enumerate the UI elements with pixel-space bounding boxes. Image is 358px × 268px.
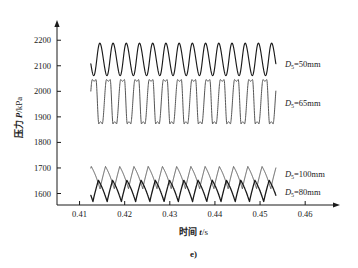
series-label-d5-100mm: D5=100mm [284,169,325,180]
series-annotations: D5=50mmD5=65mmD5=100mmD5=80mm [284,59,325,198]
curve-d5-80mm [91,180,276,201]
x-axis-arrow [333,202,340,207]
y-axis-title: 压力 P/kPa [13,97,24,139]
x-tick-label: 0.42 [117,209,132,219]
series-label-d5-50mm: D5=50mm [284,59,321,70]
svg-text:D5=50mm: D5=50mm [284,59,321,70]
pressure-oscillation-chart: 16001700180019002000210022000.410.420.43… [0,0,358,268]
series-label-d5-80mm: D5=80mm [284,187,321,198]
curve-d5-65mm [91,80,276,124]
x-tick-label: 0.44 [207,209,223,219]
series-label-d5-65mm: D5=65mm [284,98,321,109]
y-axis-arrow [54,20,59,27]
curve-d5-100mm [91,166,276,188]
svg-text:D5=80mm: D5=80mm [284,187,321,198]
x-tick-label: 0.41 [72,209,87,219]
x-tick-label: 0.45 [253,209,268,219]
figure-caption: e) [190,249,197,259]
y-tick-label: 1800 [34,137,51,147]
svg-text:D5=100mm: D5=100mm [284,169,325,180]
x-tick-label: 0.46 [298,209,313,219]
svg-text:D5=65mm: D5=65mm [284,98,321,109]
y-tick-label: 2000 [34,86,51,96]
y-tick-label: 1700 [34,163,51,173]
x-tick-label: 0.43 [162,209,177,219]
data-curves [91,43,276,202]
y-tick-label: 2100 [34,61,51,71]
curve-d5-50mm [91,43,276,75]
y-tick-label: 1900 [34,112,51,122]
y-tick-label: 1600 [34,189,51,199]
y-tick-label: 2200 [34,35,51,45]
x-axis-title: 时间 t/s [179,226,208,237]
